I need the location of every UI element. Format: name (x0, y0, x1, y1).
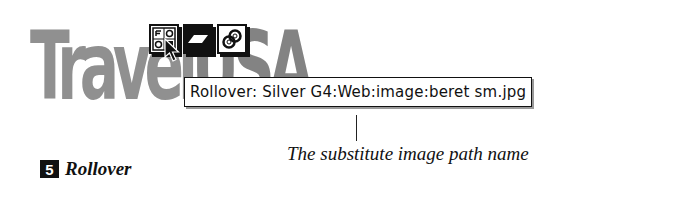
callout-caption: The substitute image path name (287, 143, 529, 165)
parallelogram-icon (186, 27, 210, 51)
link-icon (220, 27, 244, 51)
shape-button[interactable] (183, 24, 213, 54)
tooltip-text: Rollover: Silver G4:Web:image:beret sm.j… (190, 83, 526, 101)
step-title: Rollover (65, 158, 132, 180)
step-label: 5 Rollover (40, 158, 132, 180)
callout-leader-line (356, 115, 357, 141)
arrow-cursor-icon (164, 38, 184, 68)
step-number-badge: 5 (40, 160, 59, 178)
rollover-path-tooltip: Rollover: Silver G4:Web:image:beret sm.j… (184, 77, 532, 107)
link-button[interactable] (217, 24, 247, 54)
